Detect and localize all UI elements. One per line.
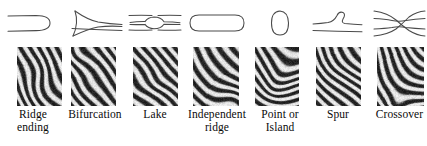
minutia-column-lake: Lake	[128, 0, 182, 146]
caption-independent-ridge: Independent ridge	[186, 108, 248, 135]
ridge-ending-fingerprint-patch	[17, 47, 62, 106]
caption-lake: Lake	[128, 108, 182, 121]
caption-ridge-ending: Ridge ending	[6, 108, 60, 135]
spur-fingerprint-patch	[316, 47, 361, 106]
minutia-column-independent-ridge: Independent ridge	[186, 0, 248, 146]
fingerprint-minutiae-figure: Ridge ending Bifurcation	[0, 0, 427, 146]
spur-diagram	[312, 2, 364, 44]
bifurcation-diagram	[66, 2, 124, 44]
caption-crossover: Crossover	[372, 108, 427, 121]
bifurcation-fingerprint-patch	[71, 47, 116, 106]
caption-bifurcation: Bifurcation	[66, 108, 124, 121]
independent-ridge-diagram	[186, 2, 248, 44]
point-or-island-diagram	[252, 2, 308, 44]
minutia-column-bifurcation: Bifurcation	[66, 0, 124, 146]
ridge-ending-diagram	[6, 2, 60, 44]
independent-ridge-fingerprint-patch	[193, 47, 239, 106]
minutia-column-point-or-island: Point or Island	[252, 0, 308, 146]
point-or-island-fingerprint-patch	[255, 47, 299, 106]
minutia-column-spur: Spur	[312, 0, 364, 146]
crossover-diagram	[372, 2, 427, 44]
crossover-fingerprint-patch	[377, 47, 424, 106]
lake-fingerprint-patch	[133, 47, 178, 106]
minutia-column-ridge-ending: Ridge ending	[6, 0, 60, 146]
minutia-column-crossover: Crossover	[372, 0, 427, 146]
caption-spur: Spur	[312, 108, 364, 121]
lake-diagram	[128, 2, 182, 44]
caption-point-or-island: Point or Island	[252, 108, 308, 135]
